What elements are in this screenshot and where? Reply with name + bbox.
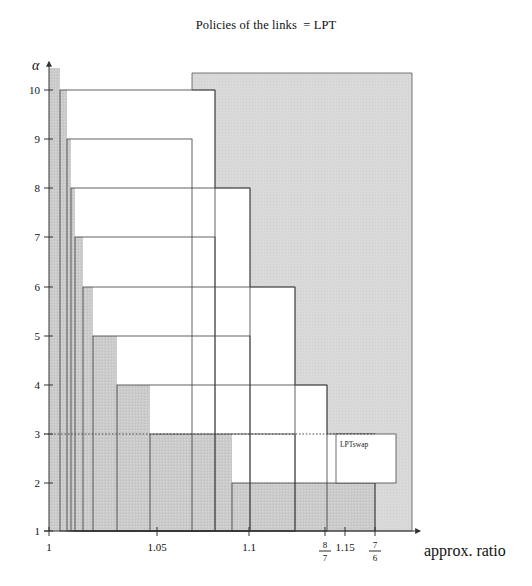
x-tick-label: 1.05 [147,541,167,553]
x-fraction-tick-7-6: 7 6 [369,540,381,563]
y-tick-label: 2 [35,477,41,489]
y-tick-label: 4 [35,379,41,391]
plot-area: α 10 9 8 7 6 5 4 3 2 1 1 1.05 1.1 1.15 8… [0,0,532,586]
lptswap-annotation-label: LPTswap [340,440,368,449]
fraction-numerator: 7 [373,540,378,550]
fraction-denominator: 7 [323,553,328,563]
y-tick-labels: 10 9 8 7 6 5 4 3 2 1 [29,84,41,537]
y-tick-label: 3 [35,428,41,440]
x-axis-label: approx. ratio [424,542,506,560]
x-tick-label: 1 [46,541,52,553]
y-tick-label: 6 [35,281,41,293]
fraction-denominator: 6 [373,553,378,563]
chart-figure: Policies of the links = LPT [0,0,532,586]
x-tick-label: 1.1 [242,541,256,553]
y-tick-label: 8 [35,182,41,194]
y-tick-label: 9 [35,133,41,145]
x-tick-labels: 1 1.05 1.1 1.15 [46,541,355,553]
y-tick-label: 5 [35,330,41,342]
y-tick-label: 10 [29,84,41,96]
y-axis-label: α [32,58,40,73]
y-tick-label: 7 [35,231,41,243]
y-tick-label: 1 [35,525,41,537]
x-tick-label: 1.15 [335,541,355,553]
x-fraction-tick-8-7: 8 7 [319,540,331,563]
fraction-numerator: 8 [323,540,328,550]
